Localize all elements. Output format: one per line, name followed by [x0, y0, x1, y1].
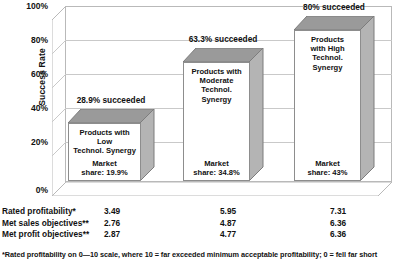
y-tick-label: 40% [14, 103, 48, 113]
table-row-label: Met profit objectives** [2, 229, 89, 239]
y-tick-label: 60% [14, 69, 48, 79]
y-tick-label: 100% [14, 1, 48, 11]
bar-front-face: Products with High Technol. Synergy Mark… [294, 30, 361, 181]
bar-value-label: 80% succeeded [278, 2, 390, 12]
bar-side-face [140, 109, 155, 182]
bar-low-synergy[interactable]: Products with Low Technol. Synergy Marke… [68, 123, 154, 181]
bar-side-face [360, 16, 375, 182]
bar-market-share: Market share: 34.8% [186, 159, 247, 177]
chart-footnote: *Rated profitability on 0—10 scale, wher… [2, 250, 397, 259]
chart-plot-area: Products with Low Technol. Synergy Marke… [52, 6, 392, 195]
bar-value-label: 63.3% succeeded [167, 34, 279, 44]
table-row: Met sales objectives** 2.76 4.87 6.36 [0, 218, 397, 230]
y-tick-label: 20% [14, 137, 48, 147]
table-cell: 2.87 [104, 229, 120, 239]
bar-side-face [249, 48, 264, 182]
plot-floor [52, 182, 392, 196]
table-cell: 4.77 [220, 229, 236, 239]
y-axis: 100% 80% 60% 40% 20% 0% [14, 0, 48, 195]
y-tick-label: 0% [14, 185, 48, 195]
table-cell: 6.36 [330, 229, 346, 239]
bar-front-face: Products with Moderate Technol. Synergy … [183, 62, 250, 181]
table-row-label: Met sales objectives** [2, 218, 89, 228]
bar-high-synergy[interactable]: Products with High Technol. Synergy Mark… [294, 30, 374, 181]
bar-category-label: Products with Moderate Technol. Synergy [186, 67, 247, 104]
table-cell: 7.31 [330, 206, 346, 216]
y-tick-label: 80% [14, 35, 48, 45]
table-cell: 6.36 [330, 218, 346, 228]
table-cell: 4.87 [220, 218, 236, 228]
bar-market-share: Market share: 19.9% [71, 159, 138, 177]
bar-value-label: 28.9% succeeded [54, 95, 168, 105]
table-row: Rated profitability* 3.49 5.95 7.31 [0, 206, 397, 218]
table-cell: 5.95 [220, 206, 236, 216]
table-row: Met profit objectives** 2.87 4.77 6.36 [0, 229, 397, 241]
table-cell: 3.49 [104, 206, 120, 216]
bar-front-face: Products with Low Technol. Synergy Marke… [68, 123, 141, 181]
table-cell: 2.76 [104, 218, 120, 228]
bar-moderate-synergy[interactable]: Products with Moderate Technol. Synergy … [183, 62, 263, 181]
table-row-label: Rated profitability* [2, 206, 76, 216]
bar-category-label: Products with High Technol. Synergy [297, 35, 358, 72]
bar-category-label: Products with Low Technol. Synergy [71, 128, 138, 156]
bar-market-share: Market share: 43% [297, 159, 358, 177]
